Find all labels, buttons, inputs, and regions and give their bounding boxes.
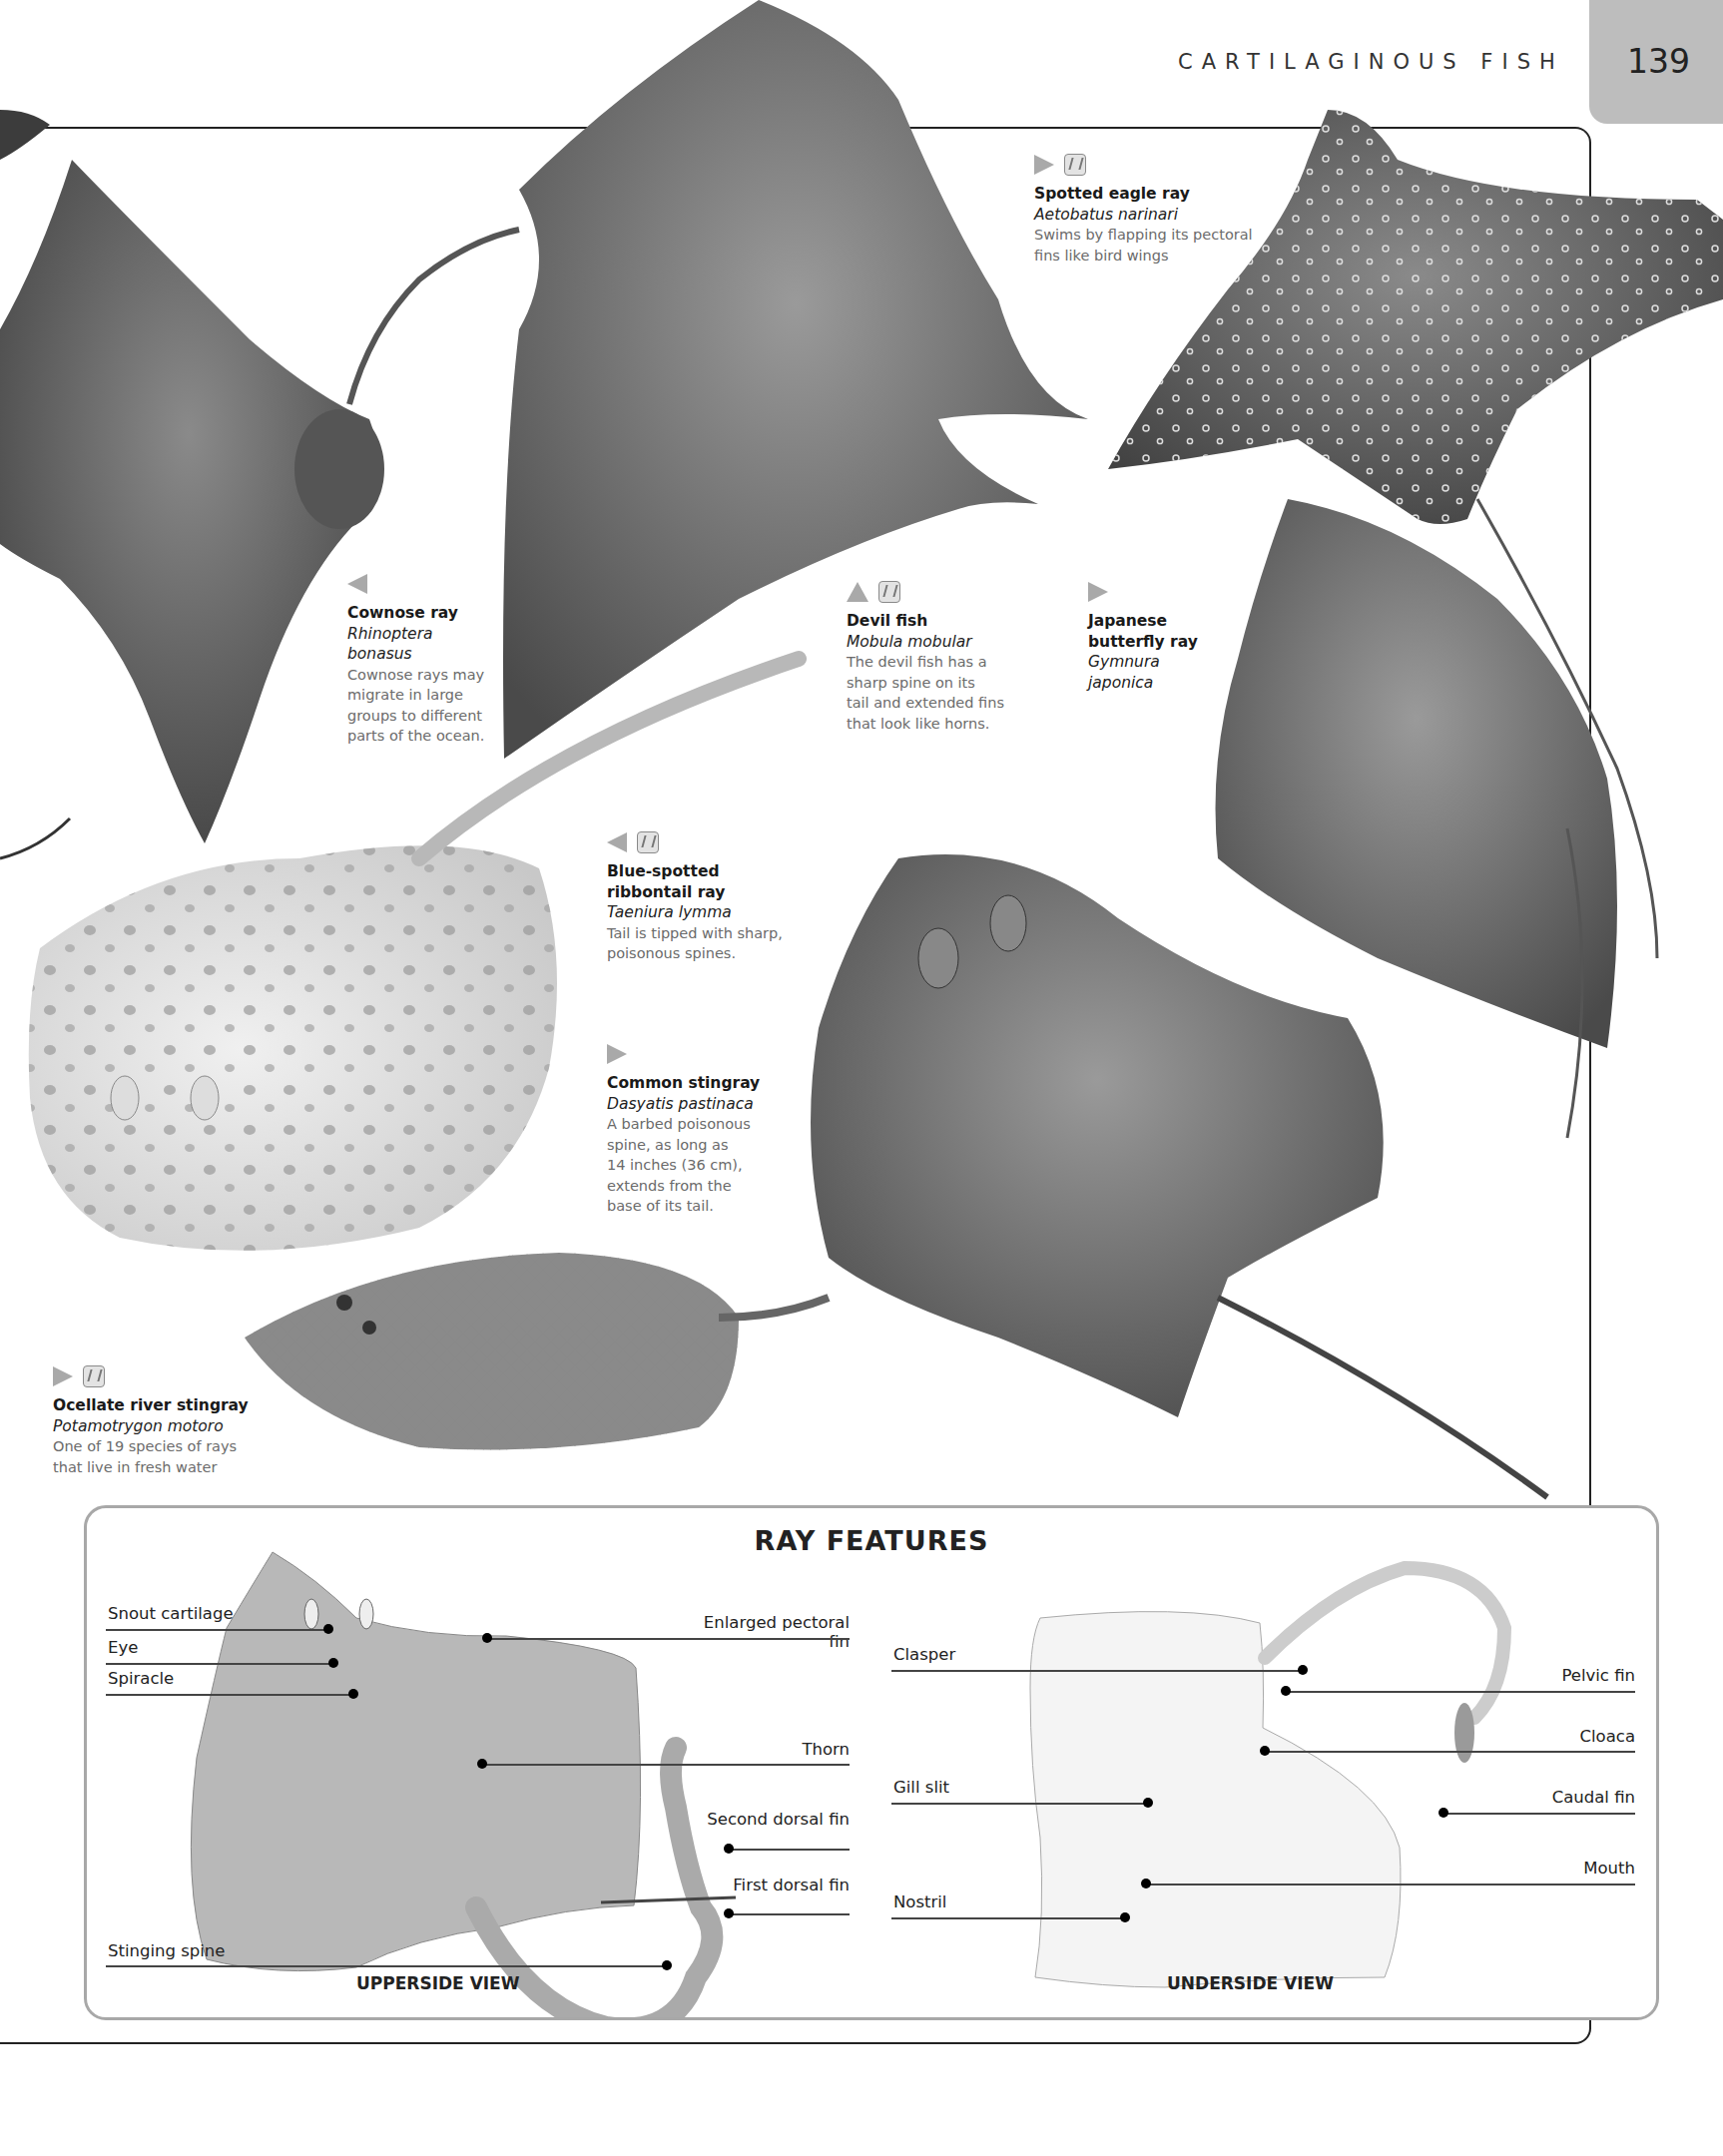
pointer-dot (328, 1658, 338, 1668)
scientific-name: Gymnura (1088, 652, 1198, 673)
right-arrow-icon (1034, 155, 1054, 175)
label-second-dorsal-fin: Second dorsal fin (678, 1810, 850, 1829)
pointer-dot (482, 1633, 492, 1643)
common-name: butterfly ray (1088, 632, 1198, 653)
common-name: Common stingray (607, 1073, 760, 1094)
right-arrow-icon (607, 1044, 627, 1064)
underside-diagram (87, 1508, 1656, 2017)
description: 14 inches (36 cm), (607, 1155, 760, 1176)
underside-view-label: UNDERSIDE VIEW (1167, 1973, 1334, 1993)
description: fins like bird wings (1034, 246, 1253, 267)
leader-line (106, 1663, 331, 1665)
scientific-name: japonica (1088, 673, 1198, 694)
ray-features-panel: RAY FEATURES Snout cartilage Eye Spiracl… (84, 1505, 1659, 2020)
leader-line (1263, 1751, 1635, 1753)
description: tail and extended fins (847, 693, 1004, 714)
leader-line (1442, 1813, 1635, 1815)
ocellate-river-stingray-illustration (245, 1253, 829, 1450)
right-arrow-icon (53, 1366, 73, 1386)
common-name: Devil fish (847, 611, 1004, 632)
caption-spotted-eagle-ray: Spotted eagle ray Aetobatus narinari Swi… (1034, 152, 1253, 266)
description: that look like horns. (847, 714, 1004, 735)
pointer-dot (1281, 1686, 1291, 1696)
description: One of 19 species of rays (53, 1436, 249, 1457)
pointer-dot (1143, 1798, 1153, 1808)
pointer-dot (1260, 1746, 1270, 1756)
scientific-name: Rhinoptera (347, 624, 484, 645)
pointer-dot (662, 1960, 672, 1970)
leader-line (486, 1638, 850, 1640)
description: Tail is tipped with sharp, (607, 923, 783, 944)
leader-line (891, 1803, 1147, 1805)
caption-japanese-butterfly-ray: Japanese butterfly ray Gymnura japonica (1088, 579, 1198, 693)
leader-line (1145, 1884, 1635, 1886)
label-nostril: Nostril (893, 1892, 946, 1911)
right-arrow-icon (1088, 582, 1108, 602)
label-enlarged-pectoral-fin: Enlarged pectoral fin (678, 1613, 850, 1651)
label-thorn: Thorn (678, 1740, 850, 1759)
pointer-dot (724, 1844, 734, 1854)
description: Cownose rays may (347, 665, 484, 686)
pointer-dot (724, 1908, 734, 1918)
danger-icon (1064, 154, 1086, 176)
scientific-name: Taeniura lymma (607, 902, 783, 923)
label-first-dorsal-fin: First dorsal fin (678, 1876, 850, 1894)
label-gill-slit: Gill slit (893, 1778, 949, 1797)
scientific-name: Aetobatus narinari (1034, 205, 1253, 226)
leader-line (728, 1849, 850, 1851)
description: The devil fish has a (847, 652, 1004, 673)
caption-common-stingray: Common stingray Dasyatis pastinaca A bar… (607, 1041, 760, 1217)
description: groups to different (347, 706, 484, 727)
common-name: ribbontail ray (607, 882, 783, 903)
leader-line (891, 1670, 1301, 1672)
scientific-name: bonasus (347, 644, 484, 665)
label-spiracle: Spiracle (108, 1669, 174, 1688)
upperside-view-label: UPPERSIDE VIEW (356, 1973, 519, 1993)
pointer-dot (477, 1759, 487, 1769)
caption-blue-spotted-ribbontail-ray: Blue-spotted ribbontail ray Taeniura lym… (607, 829, 783, 964)
description: spine, as long as (607, 1135, 760, 1156)
common-name: Spotted eagle ray (1034, 184, 1253, 205)
description: base of its tail. (607, 1196, 760, 1217)
caption-cownose-ray: Cownose ray Rhinoptera bonasus Cownose r… (347, 571, 484, 747)
description: parts of the ocean. (347, 726, 484, 747)
pointer-dot (323, 1624, 333, 1634)
scientific-name: Mobula mobular (847, 632, 1004, 653)
common-name: Japanese (1088, 611, 1198, 632)
caption-devil-fish: Devil fish Mobula mobular The devil fish… (847, 579, 1004, 734)
common-name: Cownose ray (347, 603, 484, 624)
caption-ocellate-river-stingray: Ocellate river stingray Potamotrygon mot… (53, 1363, 249, 1477)
description: migrate in large (347, 685, 484, 706)
leader-line (1285, 1691, 1635, 1693)
pointer-dot (348, 1689, 358, 1699)
up-arrow-icon (847, 582, 868, 602)
danger-icon (637, 831, 659, 853)
left-arrow-icon (347, 574, 367, 594)
partial-ray-edge (0, 110, 50, 160)
danger-icon (878, 581, 900, 603)
leader-line (891, 1917, 1123, 1919)
common-name: Blue-spotted (607, 861, 783, 882)
description: that live in fresh water (53, 1457, 249, 1478)
description: A barbed poisonous (607, 1114, 760, 1135)
scientific-name: Dasyatis pastinaca (607, 1094, 760, 1115)
label-cloaca: Cloaca (1464, 1727, 1635, 1746)
label-mouth: Mouth (1464, 1859, 1635, 1878)
label-caudal-fin: Caudal fin (1464, 1788, 1635, 1807)
pointer-dot (1120, 1912, 1130, 1922)
leader-line (106, 1629, 327, 1631)
ray-illustrations (0, 0, 1723, 1507)
label-clasper: Clasper (893, 1645, 955, 1664)
description: Swims by flapping its pectoral (1034, 225, 1253, 246)
pointer-dot (1438, 1808, 1448, 1818)
leader-line (106, 1694, 351, 1696)
left-arrow-icon (607, 832, 627, 852)
scientific-name: Potamotrygon motoro (53, 1416, 249, 1437)
description: extends from the (607, 1176, 760, 1197)
label-pelvic-fin: Pelvic fin (1464, 1666, 1635, 1685)
label-snout-cartilage: Snout cartilage (108, 1604, 234, 1623)
pointer-dot (1141, 1879, 1151, 1888)
leader-line (481, 1764, 850, 1766)
label-stinging-spine: Stinging spine (108, 1941, 225, 1960)
description: poisonous spines. (607, 943, 783, 964)
